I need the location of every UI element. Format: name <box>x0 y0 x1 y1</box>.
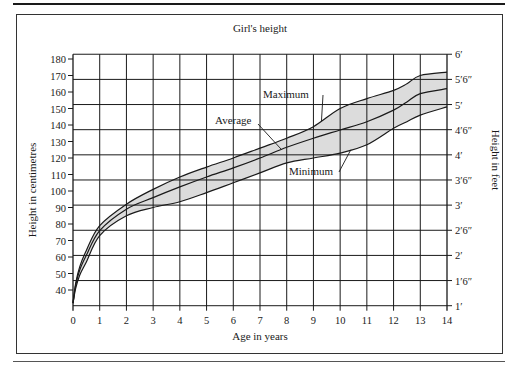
height-chart: 012345678910111213141′1′6″2′2′6″3′3′6″4′… <box>0 0 512 369</box>
y-tick-label-cm: 110 <box>51 170 66 181</box>
x-tick-label: 3 <box>151 315 156 326</box>
y-tick-label-cm: 140 <box>50 120 66 131</box>
y-axis-label-left: Height in centimetres <box>26 143 38 238</box>
y-tick-label-cm: 70 <box>56 236 67 247</box>
y-tick-label-feet: 5′ <box>455 100 463 111</box>
y-axis-label-right: Height in feet <box>490 130 502 190</box>
x-tick-label: 14 <box>442 315 453 326</box>
leader-line-maximum <box>321 95 323 121</box>
x-tick-label: 8 <box>284 315 289 326</box>
y-tick-label-cm: 40 <box>56 285 67 296</box>
y-tick-label-cm: 180 <box>50 54 66 65</box>
y-tick-label-feet: 4′6″ <box>455 125 472 136</box>
y-tick-label-cm: 130 <box>50 137 66 148</box>
x-tick-label: 1 <box>97 315 102 326</box>
x-tick-label: 9 <box>311 315 316 326</box>
y-tick-label-feet: 1′6″ <box>455 276 472 287</box>
x-tick-label: 12 <box>388 315 399 326</box>
y-tick-label-feet: 2′ <box>455 250 463 261</box>
annotation-maximum: Maximum <box>263 88 309 100</box>
y-tick-label-cm: 120 <box>50 153 66 164</box>
x-tick-label: 11 <box>362 315 372 326</box>
x-tick-label: 2 <box>124 315 129 326</box>
y-tick-label-feet: 6′ <box>455 49 463 60</box>
chart-title: Girl's height <box>233 22 287 34</box>
y-tick-label-cm: 60 <box>56 252 67 263</box>
y-tick-label-cm: 160 <box>50 87 66 98</box>
y-tick-label-feet: 1′ <box>455 301 463 312</box>
x-tick-label: 13 <box>415 315 426 326</box>
annotation-minimum: Minimum <box>289 165 333 177</box>
y-tick-label-cm: 90 <box>56 203 67 214</box>
y-tick-label-cm: 50 <box>56 269 67 280</box>
x-tick-label: 6 <box>231 315 236 326</box>
x-tick-label: 4 <box>177 315 183 326</box>
y-tick-label-feet: 3′ <box>455 200 463 211</box>
y-tick-label-feet: 5′6″ <box>455 74 472 85</box>
y-tick-label-feet: 4′ <box>455 150 463 161</box>
y-tick-label-cm: 100 <box>50 186 66 197</box>
y-tick-label-cm: 80 <box>56 219 67 230</box>
y-tick-label-feet: 2′6″ <box>455 225 472 236</box>
annotation-average: Average <box>215 114 252 126</box>
x-axis-label: Age in years <box>232 330 288 342</box>
y-tick-label-feet: 3′6″ <box>455 175 472 186</box>
y-tick-label-cm: 150 <box>50 104 66 115</box>
x-tick-label: 10 <box>335 315 346 326</box>
x-tick-label: 7 <box>257 315 262 326</box>
x-tick-label: 0 <box>70 315 75 326</box>
x-tick-label: 5 <box>204 315 209 326</box>
y-tick-label-cm: 170 <box>50 71 66 82</box>
